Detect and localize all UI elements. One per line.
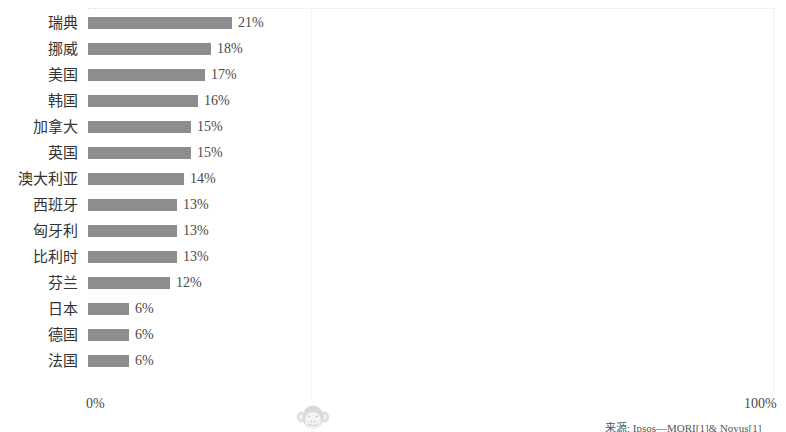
plot-top-border xyxy=(88,8,774,9)
bar-value-label: 16% xyxy=(204,88,230,114)
category-label: 比利时 xyxy=(0,244,78,270)
bar-row: 英国15% xyxy=(0,140,786,166)
axis-tick-min: 0% xyxy=(86,396,105,412)
bar-row: 西班牙13% xyxy=(0,192,786,218)
category-label: 匈牙利 xyxy=(0,218,78,244)
category-label: 芬兰 xyxy=(0,270,78,296)
bar-value-label: 6% xyxy=(135,348,154,374)
chart-title-clipped xyxy=(18,0,278,5)
monkey-face-icon xyxy=(296,404,330,430)
axis-tick-max: 100% xyxy=(744,396,777,412)
bar-value-label: 12% xyxy=(176,270,202,296)
bar-row: 匈牙利13% xyxy=(0,218,786,244)
bar xyxy=(88,95,198,107)
category-label: 日本 xyxy=(0,296,78,322)
bar-value-label: 13% xyxy=(183,218,209,244)
bar-row: 澳大利亚14% xyxy=(0,166,786,192)
bar-value-label: 17% xyxy=(211,62,237,88)
bar xyxy=(88,69,205,81)
bar-value-label: 18% xyxy=(217,36,243,62)
bar xyxy=(88,199,177,211)
bar xyxy=(88,303,129,315)
bar-row: 法国6% xyxy=(0,348,786,374)
bar xyxy=(88,147,191,159)
bar-value-label: 21% xyxy=(238,10,264,36)
bar-chart: 瑞典21%挪威18%美国17%韩国16%加拿大15%英国15%澳大利亚14%西班… xyxy=(0,0,786,432)
category-label: 西班牙 xyxy=(0,192,78,218)
bar xyxy=(88,121,191,133)
source-note: 来源: Ipsos—MORI[1]& Novus[1] xyxy=(605,419,761,432)
category-label: 加拿大 xyxy=(0,114,78,140)
bar xyxy=(88,17,232,29)
category-label: 澳大利亚 xyxy=(0,166,78,192)
category-label: 德国 xyxy=(0,322,78,348)
bar-row: 比利时13% xyxy=(0,244,786,270)
bar-value-label: 13% xyxy=(183,244,209,270)
category-label: 美国 xyxy=(0,62,78,88)
bar-value-label: 15% xyxy=(197,114,223,140)
bar-row: 德国6% xyxy=(0,322,786,348)
bar-value-label: 6% xyxy=(135,322,154,348)
bar-row: 美国17% xyxy=(0,62,786,88)
bar xyxy=(88,225,177,237)
bar xyxy=(88,329,129,341)
bar-value-label: 6% xyxy=(135,296,154,322)
bar xyxy=(88,43,211,55)
bar-row: 瑞典21% xyxy=(0,10,786,36)
category-label: 韩国 xyxy=(0,88,78,114)
bar-value-label: 14% xyxy=(190,166,216,192)
bar-row: 挪威18% xyxy=(0,36,786,62)
bar-row: 加拿大15% xyxy=(0,114,786,140)
bar-row: 芬兰12% xyxy=(0,270,786,296)
bar-row: 日本6% xyxy=(0,296,786,322)
category-label: 挪威 xyxy=(0,36,78,62)
category-label: 法国 xyxy=(0,348,78,374)
bar xyxy=(88,251,177,263)
bar xyxy=(88,173,184,185)
bar-row: 韩国16% xyxy=(0,88,786,114)
bar xyxy=(88,355,129,367)
bar xyxy=(88,277,170,289)
bar-value-label: 15% xyxy=(197,140,223,166)
category-label: 英国 xyxy=(0,140,78,166)
category-label: 瑞典 xyxy=(0,10,78,36)
bar-value-label: 13% xyxy=(183,192,209,218)
